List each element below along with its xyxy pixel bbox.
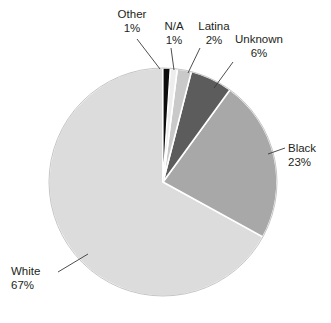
pie-label-black-value: 23% [288, 156, 328, 170]
leader-line-unknown [214, 62, 233, 88]
pie-label-white-value: 67% [11, 279, 55, 293]
pie-label-na: N/A 1% [158, 20, 190, 47]
pie-label-unknown-name: Unknown [228, 33, 290, 47]
leader-line-latina [188, 48, 200, 73]
leader-line-other [137, 39, 160, 69]
pie-label-na-name: N/A [158, 20, 190, 34]
pie-slices-group [49, 68, 277, 296]
pie-label-black: Black 23% [288, 142, 328, 169]
pie-label-white-name: White [11, 265, 55, 279]
leader-line-na [171, 48, 174, 70]
pie-label-latina-name: Latina [192, 20, 236, 34]
pie-chart-figure: Other 1% N/A 1% Latina 2% Unknown 6% Bla… [0, 0, 331, 323]
pie-label-other-name: Other [109, 8, 155, 22]
pie-label-other: Other 1% [109, 8, 155, 35]
pie-label-unknown-value: 6% [228, 47, 290, 61]
pie-label-black-name: Black [288, 142, 328, 156]
pie-label-other-value: 1% [109, 22, 155, 36]
pie-label-na-value: 1% [158, 34, 190, 48]
pie-label-unknown: Unknown 6% [228, 33, 290, 60]
pie-label-white: White 67% [11, 265, 55, 292]
